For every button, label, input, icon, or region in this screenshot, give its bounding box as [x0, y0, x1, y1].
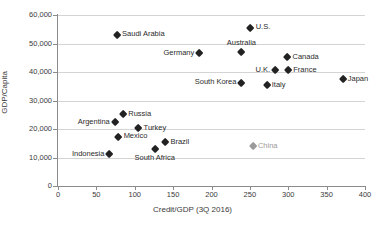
- diamond-marker-icon: [271, 65, 280, 74]
- data-point-label: France: [293, 66, 316, 74]
- gridline: [58, 72, 365, 73]
- y-tick-mark: [53, 72, 58, 73]
- y-tick-label: 60,000: [29, 11, 52, 19]
- y-tick-label: 40,000: [29, 68, 52, 76]
- x-tick-label: 350: [312, 190, 342, 199]
- diamond-marker-icon: [114, 132, 123, 141]
- diamond-marker-icon: [283, 53, 292, 62]
- diamond-marker-icon: [284, 65, 293, 74]
- data-point-label: Germany: [163, 49, 194, 57]
- data-point-label: Australia: [227, 39, 256, 47]
- diamond-marker-icon: [161, 138, 170, 147]
- y-tick-mark: [53, 15, 58, 16]
- x-tick-label: 250: [235, 190, 265, 199]
- diamond-marker-icon: [338, 75, 347, 84]
- diamond-marker-icon: [248, 142, 257, 151]
- diamond-marker-icon: [246, 23, 255, 32]
- diamond-marker-icon: [113, 30, 122, 39]
- y-tick-mark: [53, 158, 58, 159]
- gridline: [58, 101, 365, 102]
- plot-area: Saudi ArabiaU.S.AustraliaGermanyCanadaU.…: [58, 15, 365, 186]
- gridline: [58, 15, 365, 16]
- data-point-label: Canada: [292, 53, 318, 61]
- y-tick-label: 0: [48, 182, 52, 190]
- diamond-marker-icon: [195, 49, 204, 58]
- data-point-label: Argentina: [78, 118, 110, 126]
- diamond-marker-icon: [262, 81, 271, 90]
- diamond-marker-icon: [110, 118, 119, 127]
- y-tick-mark: [53, 44, 58, 45]
- data-point-label: South Korea: [195, 78, 237, 86]
- y-tick-mark: [53, 101, 58, 102]
- x-tick-label: 50: [81, 190, 111, 199]
- diamond-marker-icon: [237, 78, 246, 87]
- y-tick-label: 20,000: [29, 125, 52, 133]
- data-point-label: U.K.: [256, 66, 271, 74]
- data-point-label: South Africa: [134, 154, 174, 162]
- x-tick-label: 100: [120, 190, 150, 199]
- x-axis-title: Credit/GDP (3Q 2016): [0, 205, 385, 214]
- data-point-label: Japan: [348, 75, 368, 83]
- x-tick-label: 0: [43, 190, 73, 199]
- data-point-label: Italy: [272, 81, 286, 89]
- y-tick-label: 50,000: [29, 40, 52, 48]
- data-point-label: China: [258, 142, 278, 150]
- scatter-chart: Saudi ArabiaU.S.AustraliaGermanyCanadaU.…: [0, 0, 385, 228]
- data-point-label: U.S.: [256, 23, 271, 31]
- data-point-label: Saudi Arabia: [122, 30, 165, 38]
- data-point-label: Brazil: [170, 138, 189, 146]
- data-point-label: Mexico: [124, 132, 148, 140]
- diamond-marker-icon: [237, 48, 246, 57]
- x-tick-label: 300: [273, 190, 303, 199]
- gridline: [58, 44, 365, 45]
- x-tick-label: 400: [350, 190, 380, 199]
- y-tick-label: 30,000: [29, 97, 52, 105]
- x-tick-label: 150: [158, 190, 188, 199]
- gridline: [58, 129, 365, 130]
- data-point-label: Indonesia: [72, 150, 105, 158]
- y-tick-label: 10,000: [29, 154, 52, 162]
- data-point-label: Russia: [128, 110, 151, 118]
- x-tick-label: 200: [197, 190, 227, 199]
- y-tick-mark: [53, 129, 58, 130]
- diamond-marker-icon: [119, 110, 128, 119]
- y-axis-title: GDP/Capita: [0, 53, 9, 133]
